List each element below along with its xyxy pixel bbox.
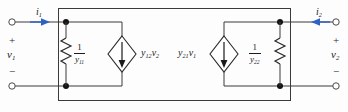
right-port-minus-sign: − [333,66,339,77]
left-resistor-zigzag [61,38,71,64]
left-resistor-value-label: 1 y11 [74,43,85,64]
right-resistor-numerator: 1 [249,43,261,53]
left-port-voltage-label: v1 [7,49,15,60]
right-current-arrow-head [311,18,320,26]
right-dependent-source-label: y21v1 [178,48,196,58]
right-port-top-terminal [333,19,339,25]
left-port-minus-sign: − [9,66,15,77]
left-dependent-source-label: y12v2 [141,48,159,58]
left-port-plus-sign: + [9,35,15,46]
left-resistor-denominator: y11 [74,54,85,64]
right-resistor-denominator: y22 [249,54,261,64]
left-resistor-numerator: 1 [74,43,85,53]
right-resistor-zigzag [275,38,285,64]
left-port-current-label: i1 [36,7,42,17]
circuit-schematic-svg [0,0,348,112]
left-current-arrow-head [41,18,50,26]
two-port-circuit-figure: i1 i2 + v1 − + v2 − 1 y11 1 y22 y12v2 y2… [0,0,348,112]
right-port-voltage-label: v2 [331,49,339,60]
right-port-bottom-terminal [333,83,339,89]
left-port-top-terminal [9,19,15,25]
right-resistor-value-label: 1 y22 [249,43,261,64]
left-port-bottom-terminal [9,83,15,89]
right-port-current-label: i2 [316,7,322,17]
right-port-plus-sign: + [333,35,339,46]
